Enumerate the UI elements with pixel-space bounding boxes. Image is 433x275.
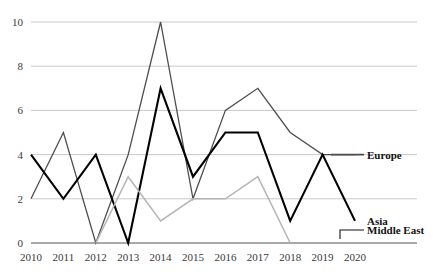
y-tick-label: 10 [12,16,24,28]
series-lines-group [31,22,355,243]
x-tick-label: 2016 [214,251,237,263]
x-tick-label: 2020 [344,251,367,263]
y-tick-label: 6 [18,104,24,116]
y-tick-label: 8 [18,60,24,72]
gridlines-group [31,22,417,243]
series-label-europe: Europe [367,149,402,161]
y-tick-label: 0 [18,237,24,249]
x-tick-label: 2014 [150,251,173,263]
x-tick-label: 2010 [20,251,43,263]
series-inline-labels: EuropeAsiaMiddle East [331,149,424,239]
chart-canvas: 0246810 20102011201220132014201520162017… [0,0,433,275]
y-tick-label: 2 [18,193,24,205]
series-line-europe [31,22,355,243]
y-axis-ticks: 0246810 [12,16,24,249]
line-chart: 0246810 20102011201220132014201520162017… [0,0,433,275]
x-tick-label: 2019 [312,251,335,263]
series-line-asia [31,88,355,243]
series-leader-middle-east [340,230,364,239]
x-tick-label: 2013 [117,251,140,263]
x-tick-label: 2018 [279,251,302,263]
x-tick-label: 2015 [182,251,205,263]
x-tick-label: 2011 [53,251,75,263]
x-tick-label: 2012 [85,251,107,263]
y-tick-label: 4 [18,149,24,161]
x-tick-label: 2017 [247,251,270,263]
series-label-middle-east: Middle East [367,224,424,236]
x-axis-ticks: 2010201120122013201420152016201720182019… [20,251,367,263]
